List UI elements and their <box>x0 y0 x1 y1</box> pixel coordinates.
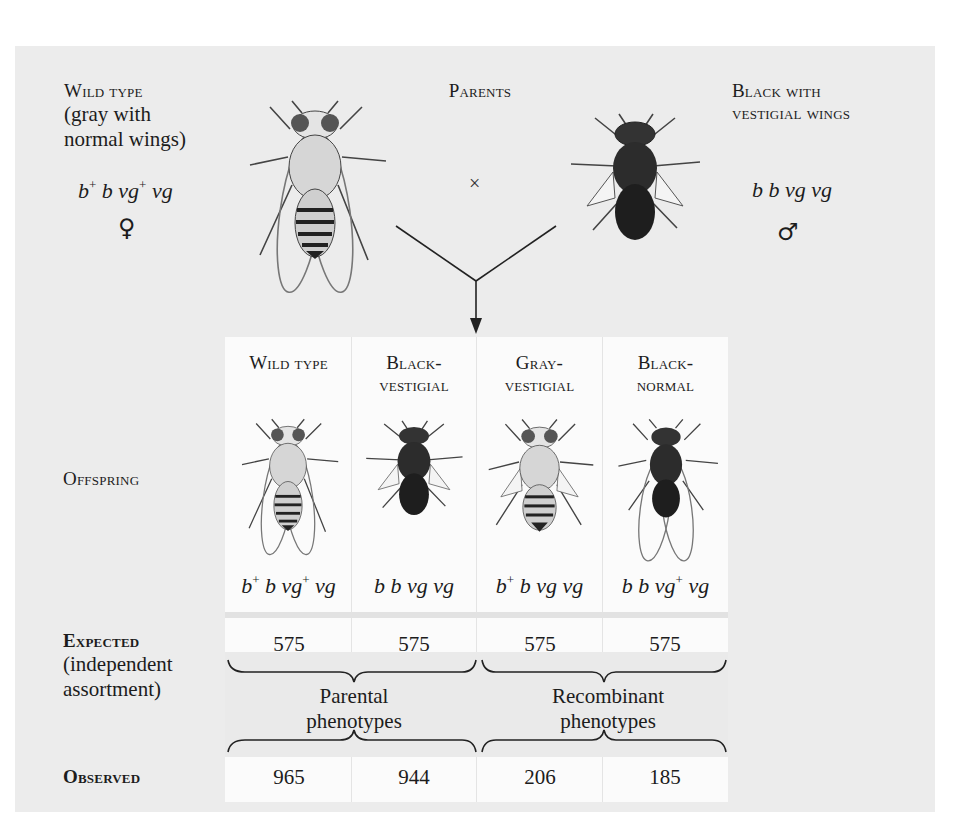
observed-count: 185 <box>605 765 725 790</box>
grouping-braces <box>0 0 964 837</box>
observed-label: Observed <box>63 766 140 788</box>
recombinant-phenotypes-label: Recombinantphenotypes <box>508 684 708 734</box>
observed-count: 965 <box>229 765 349 790</box>
observed-count: 206 <box>480 765 600 790</box>
observed-count: 944 <box>354 765 474 790</box>
parental-phenotypes-label: Parentalphenotypes <box>254 684 454 734</box>
